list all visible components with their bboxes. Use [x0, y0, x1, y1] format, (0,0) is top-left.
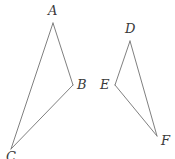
vertex-label-f: F	[161, 134, 170, 147]
triangle-abc	[11, 23, 73, 149]
geometry-figure: ABCDEF	[0, 0, 175, 159]
edge-bc	[11, 85, 73, 149]
vertex-label-b: B	[77, 78, 87, 91]
vertex-label-d: D	[125, 22, 135, 35]
triangle-def	[115, 41, 157, 136]
edge-de	[115, 41, 130, 85]
edge-ef	[115, 85, 157, 136]
vertex-label-a: A	[48, 4, 57, 17]
edge-ca	[11, 23, 53, 149]
edge-ab	[53, 23, 73, 85]
vertex-label-c: C	[6, 150, 16, 159]
edge-fd	[130, 41, 157, 136]
vertex-label-e: E	[100, 78, 110, 91]
figure-canvas	[0, 0, 175, 159]
